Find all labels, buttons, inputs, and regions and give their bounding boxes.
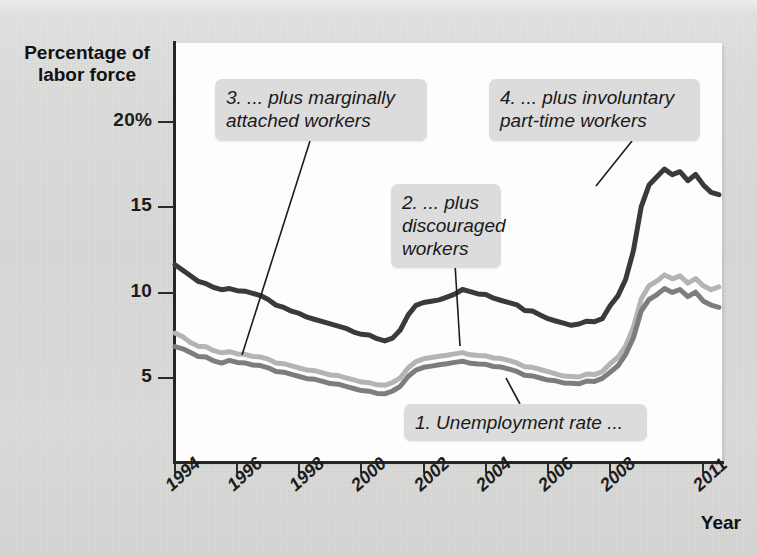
annotation-a3: 3. ... plus marginally attached workers [215,79,427,141]
y-tick-15 [158,206,174,208]
y-axis-title: Percentage of labor force [12,42,162,87]
x-axis-title: Year [701,512,741,534]
y-tick-label-5: 5 [0,365,152,387]
annotation-a1: 1. Unemployment rate ... [404,404,647,441]
annotation-a4: 4. ... plus involuntary part-time worker… [489,79,700,141]
y-tick-10 [158,292,174,294]
y-tick-label-10: 10 [0,280,152,302]
annotation-a2: 2. ... plus discouraged workers [391,184,501,268]
y-tick-label-15: 15 [0,194,152,216]
y-axis-line [173,41,176,464]
y-tick-label-20: 20% [0,109,152,131]
y-tick-5 [158,377,174,379]
page-top-strip [0,0,757,18]
y-tick-20 [158,121,174,123]
